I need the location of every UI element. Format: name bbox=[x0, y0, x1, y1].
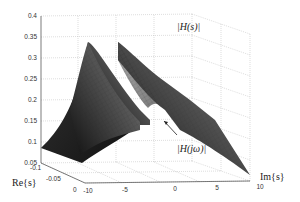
svg-text:-5: -5 bbox=[122, 186, 128, 193]
svg-text:10: 10 bbox=[256, 183, 264, 190]
svg-text:0.1: 0.1 bbox=[28, 138, 37, 145]
svg-text:0: 0 bbox=[173, 185, 177, 192]
im-axis-line bbox=[85, 181, 250, 183]
surface-plot: 0.4 0.35 0.3 0.25 0.2 0.15 0.1 0.05 -0.1… bbox=[0, 0, 300, 202]
svg-text:-10: -10 bbox=[83, 187, 93, 194]
z-ticks: 0.4 0.35 0.3 0.25 0.2 0.15 0.1 0.05 bbox=[24, 12, 37, 166]
im-axis-label: Im{s} bbox=[260, 171, 285, 182]
svg-text:-0.1: -0.1 bbox=[30, 164, 42, 171]
svg-text:0.15: 0.15 bbox=[24, 117, 37, 124]
hs-label: |H(s)| bbox=[177, 21, 200, 33]
svg-text:0: 0 bbox=[73, 186, 77, 193]
svg-text:0.25: 0.25 bbox=[24, 75, 37, 82]
svg-text:0.2: 0.2 bbox=[28, 96, 37, 103]
im-ticks: -10 -5 0 5 10 bbox=[83, 183, 264, 194]
re-axis-label: Re{s} bbox=[12, 177, 37, 188]
hjw-label: |H(jω)| bbox=[177, 143, 206, 155]
svg-text:0.4: 0.4 bbox=[28, 12, 37, 19]
svg-text:-0.05: -0.05 bbox=[46, 175, 61, 182]
svg-text:5: 5 bbox=[215, 184, 219, 191]
svg-text:0.35: 0.35 bbox=[24, 33, 37, 40]
svg-text:0.3: 0.3 bbox=[28, 54, 37, 61]
